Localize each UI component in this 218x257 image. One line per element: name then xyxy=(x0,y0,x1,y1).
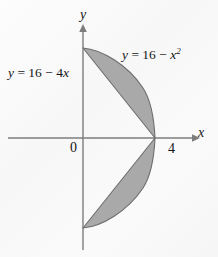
parabola-equation-label: y = 16 − x2 xyxy=(122,48,181,62)
line-equation-body: = 16 − 4 xyxy=(14,65,63,80)
x-axis-label: x xyxy=(198,126,204,140)
y-axis-arrowhead xyxy=(79,24,87,32)
x-tick-label-4: 4 xyxy=(168,142,175,156)
math-figure: y x 0 4 y = 16 − 4x y = 16 − x2 xyxy=(0,0,218,257)
lower-shaded-region xyxy=(83,138,155,228)
figure-canvas xyxy=(0,0,218,257)
parabola-equation-body: = 16 − xyxy=(128,47,170,62)
parabola-equation-exponent: 2 xyxy=(176,46,181,56)
line-equation-x: x xyxy=(63,65,69,80)
origin-label: 0 xyxy=(70,141,77,155)
y-axis-label: y xyxy=(80,8,86,22)
line-equation-label: y = 16 − 4x xyxy=(8,66,69,80)
